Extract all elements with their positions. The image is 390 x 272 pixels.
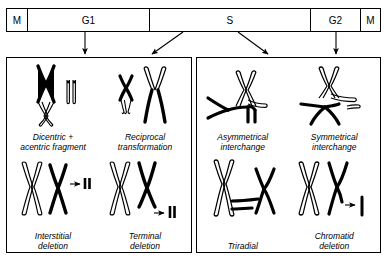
caption-chromatid-deletion: Chromatid deletion bbox=[289, 232, 381, 251]
caption-line-2: deletion bbox=[99, 242, 191, 252]
cell-cycle-phase-g1: G1 bbox=[28, 9, 150, 31]
caption-line-2: deletion bbox=[7, 242, 99, 252]
caption-line-2: acentric fragment bbox=[7, 143, 99, 153]
cell-cycle-phase-m-last: M bbox=[361, 9, 380, 31]
phase-label: S bbox=[227, 15, 234, 26]
figure-symmetrical-interchange: Symmetrical interchange bbox=[289, 58, 381, 155]
symmetrical-interchange-illustration bbox=[289, 60, 381, 130]
caption-interstitial-deletion: Interstitial deletion bbox=[7, 232, 99, 251]
interstitial-deletion-illustration bbox=[7, 157, 99, 227]
figure-dicentric-acentric: Dicentric + acentric fragment bbox=[7, 58, 99, 155]
chromatid-deletion-illustration bbox=[289, 157, 381, 227]
caption-dicentric-acentric: Dicentric + acentric fragment bbox=[7, 133, 99, 152]
figure-interstitial-deletion: Interstitial deletion bbox=[7, 155, 99, 252]
caption-line-2: interchange bbox=[197, 143, 289, 153]
phase-label: G2 bbox=[329, 15, 343, 26]
caption-reciprocal-transformation: Reciprocal transformation bbox=[99, 133, 191, 152]
caption-triradial: Triradial bbox=[197, 242, 289, 252]
figure-terminal-deletion: Terminal deletion bbox=[99, 155, 191, 252]
caption-symmetrical-interchange: Symmetrical interchange bbox=[289, 133, 381, 152]
figure-asymmetrical-interchange: Asymmetrical interchange bbox=[197, 58, 289, 155]
arrow-s-to-right-panel bbox=[238, 32, 268, 54]
figure-chromatid-deletion: Chromatid deletion bbox=[289, 155, 381, 252]
figure-triradial: Triradial bbox=[197, 155, 289, 252]
caption-asymmetrical-interchange: Asymmetrical interchange bbox=[197, 133, 289, 152]
caption-terminal-deletion: Terminal deletion bbox=[99, 232, 191, 251]
caption-line-2: interchange bbox=[289, 143, 381, 153]
dicentric-acentric-illustration bbox=[7, 60, 99, 130]
arrow-s-to-left-panel bbox=[152, 32, 183, 54]
reciprocal-transformation-illustration bbox=[99, 60, 191, 130]
panel-chromosome-type-aberrations: Dicentric + acentric fragment bbox=[6, 57, 192, 253]
cell-cycle-phase-m-first: M bbox=[7, 9, 28, 31]
panel-chromatid-type-aberrations: Asymmetrical interchange bbox=[196, 57, 381, 253]
cell-cycle-bar: M G1 S G2 M bbox=[6, 8, 381, 32]
phase-label: M bbox=[13, 15, 22, 26]
diagram-root: M G1 S G2 M bbox=[0, 0, 390, 272]
cell-cycle-phase-g2: G2 bbox=[311, 9, 361, 31]
phase-label: M bbox=[366, 15, 375, 26]
terminal-deletion-illustration bbox=[99, 157, 191, 227]
triradial-illustration bbox=[197, 157, 289, 227]
phase-label: G1 bbox=[82, 15, 96, 26]
figure-reciprocal-transformation: Reciprocal transformation bbox=[99, 58, 191, 155]
caption-line-2: deletion bbox=[289, 242, 381, 252]
cell-cycle-phase-s: S bbox=[150, 9, 311, 31]
caption-line-1: Triradial bbox=[197, 242, 289, 252]
caption-line-2: transformation bbox=[99, 143, 191, 153]
asymmetrical-interchange-illustration bbox=[197, 60, 289, 130]
